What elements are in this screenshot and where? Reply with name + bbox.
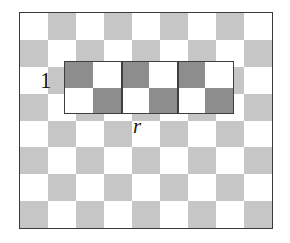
rectangle-cell: [93, 62, 121, 88]
board-cell: [20, 121, 48, 148]
board-cell: [132, 13, 160, 40]
highlighted-rectangle-grid: [65, 62, 233, 113]
board-cell: [244, 94, 272, 121]
rectangle-cell: [65, 88, 93, 114]
board-cell: [188, 147, 216, 174]
rectangle-divider: [177, 62, 179, 113]
board-cell: [20, 94, 48, 121]
board-cell: [104, 13, 132, 40]
board-cell: [48, 121, 76, 148]
board-cell: [188, 13, 216, 40]
rectangle-cell: [93, 88, 121, 114]
board-cell: [160, 201, 188, 228]
board-cell: [76, 174, 104, 201]
board-cell: [76, 147, 104, 174]
board-cell: [216, 13, 244, 40]
board-cell: [244, 67, 272, 94]
board-cell: [244, 147, 272, 174]
board-cell: [76, 121, 104, 148]
checkerboard: [19, 12, 273, 229]
board-cell: [160, 121, 188, 148]
board-cell: [244, 174, 272, 201]
board-cell: [48, 13, 76, 40]
rectangle-cell: [205, 62, 233, 88]
rectangle-cell: [149, 88, 177, 114]
rectangle-cell: [205, 88, 233, 114]
width-label: r: [133, 116, 141, 137]
board-cell: [48, 147, 76, 174]
board-cell: [160, 147, 188, 174]
board-cell: [216, 174, 244, 201]
board-cell: [20, 147, 48, 174]
board-cell: [244, 13, 272, 40]
checkerboard-grid: [20, 13, 272, 228]
board-cell: [216, 121, 244, 148]
board-cell: [48, 174, 76, 201]
board-cell: [244, 201, 272, 228]
board-cell: [104, 121, 132, 148]
board-cell: [216, 201, 244, 228]
board-cell: [104, 201, 132, 228]
height-label: 1: [40, 69, 52, 92]
board-cell: [132, 201, 160, 228]
board-cell: [48, 201, 76, 228]
board-cell: [160, 174, 188, 201]
board-cell: [244, 40, 272, 67]
board-cell: [160, 13, 188, 40]
rectangle-cell: [149, 62, 177, 88]
board-cell: [188, 121, 216, 148]
board-cell: [104, 174, 132, 201]
board-cell: [188, 174, 216, 201]
rectangle-cell: [177, 88, 205, 114]
board-cell: [76, 13, 104, 40]
board-cell: [244, 121, 272, 148]
board-cell: [104, 147, 132, 174]
rectangle-cell: [65, 62, 93, 88]
board-cell: [132, 147, 160, 174]
board-cell: [216, 147, 244, 174]
board-cell: [20, 201, 48, 228]
board-cell: [20, 174, 48, 201]
rectangle-cell: [121, 62, 149, 88]
rectangle-cell: [177, 62, 205, 88]
board-cell: [188, 201, 216, 228]
board-cell: [76, 201, 104, 228]
board-cell: [20, 40, 48, 67]
board-cell: [132, 174, 160, 201]
highlighted-rectangle: [64, 61, 234, 114]
rectangle-divider: [121, 62, 123, 113]
figure-root: 1 r: [0, 0, 290, 243]
board-cell: [20, 13, 48, 40]
rectangle-cell: [121, 88, 149, 114]
